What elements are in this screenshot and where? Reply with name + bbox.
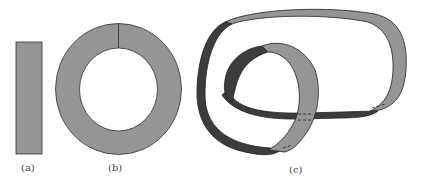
twisted-band-c	[197, 9, 406, 154]
label-c: (c)	[289, 164, 303, 175]
label-b: (b)	[108, 162, 122, 173]
strip-a	[16, 42, 42, 154]
label-a: (a)	[21, 162, 35, 173]
figure-canvas: (a) (b) (c)	[0, 0, 422, 188]
